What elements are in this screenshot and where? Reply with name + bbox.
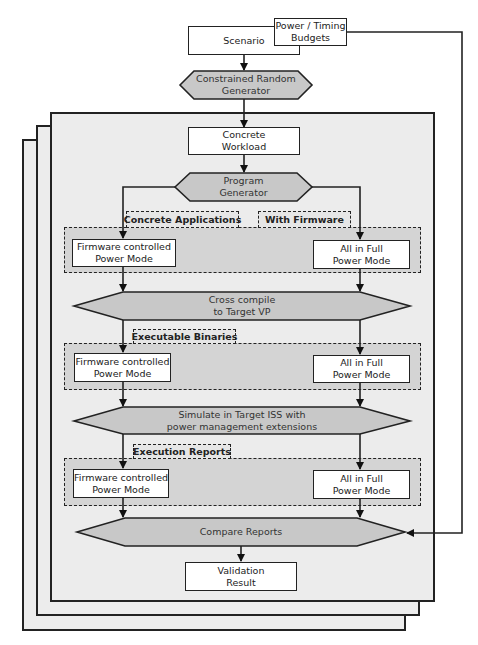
tag-executable-binaries: Executable Binaries xyxy=(133,329,236,344)
concrete-workload-box: Concrete Workload xyxy=(188,127,300,155)
group2-all-full-power-box: All in Full Power Mode xyxy=(313,355,410,383)
tag-with-firmware: With Firmware xyxy=(258,211,351,228)
constrained-random-generator-label: Constrained Random Generator xyxy=(180,71,312,99)
program-generator-label: Program Generator xyxy=(175,173,312,201)
simulate-label: Simulate in Target ISS with power manage… xyxy=(74,407,410,434)
group1-firmware-controlled-box: Firmware controlled Power Mode xyxy=(72,239,176,267)
validation-result-box: Validation Result xyxy=(185,562,297,591)
tag-concrete-applications: Concrete Applications xyxy=(126,211,239,228)
compare-reports-label: Compare Reports xyxy=(77,518,405,546)
group3-firmware-controlled-box: Firmware controlled Power Mode xyxy=(73,469,169,498)
group1-all-full-power-box: All in Full Power Mode xyxy=(313,240,410,269)
power-timing-budgets-box: Power / Timing Budgets xyxy=(274,18,347,46)
cross-compile-label: Cross compile to Target VP xyxy=(74,292,410,320)
group2-firmware-controlled-box: Firmware controlled Power Mode xyxy=(74,353,171,382)
tag-execution-reports: Execution Reports xyxy=(133,444,231,459)
group3-all-full-power-box: All in Full Power Mode xyxy=(313,470,410,499)
